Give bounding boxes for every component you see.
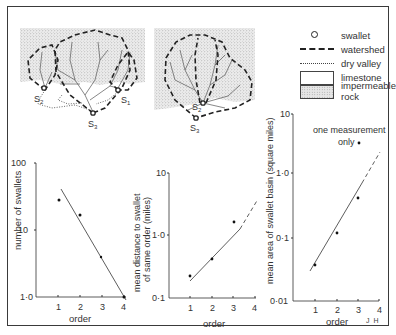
swallet-circle-icon xyxy=(300,29,334,41)
ylabel-line2: of same order (miles) xyxy=(142,197,152,282)
xtick-1: 1 xyxy=(313,305,318,315)
dry-valleys xyxy=(38,90,118,110)
swallet-s3-icon xyxy=(91,111,95,115)
legend-label: watershed xyxy=(341,44,385,55)
ytick-0-1: 0·1 xyxy=(152,293,165,303)
xtick-3: 3 xyxy=(100,302,105,312)
swallets xyxy=(42,86,120,115)
data-points xyxy=(189,221,236,278)
label-s2: S2 xyxy=(34,94,44,105)
ytick-0-1: 0·1 xyxy=(276,233,289,243)
map-right: S2 S3 xyxy=(154,28,255,134)
xtick-4: 4 xyxy=(377,305,382,315)
ytick-1: 1·0 xyxy=(276,168,289,178)
data-points xyxy=(58,199,126,299)
fit-line xyxy=(310,183,362,271)
xtick-4: 4 xyxy=(252,303,257,313)
ytick-0-01: 0·01 xyxy=(270,296,288,306)
xtick-2: 2 xyxy=(335,305,340,315)
xtick-4: 4 xyxy=(121,302,126,312)
fit-line xyxy=(190,229,240,281)
chart-mean-area xyxy=(291,114,380,301)
ytick-100: 100 xyxy=(11,158,26,168)
ytick-10: 10 xyxy=(280,109,290,119)
impermeable-rock-area xyxy=(154,28,255,110)
swallet-s2-icon xyxy=(42,86,46,90)
stippled-box-icon xyxy=(300,85,334,97)
label-s3: S3 xyxy=(88,119,98,130)
legend-item-watershed: watershed xyxy=(300,42,396,56)
legend-item-impermeable-rock: impermeable rock xyxy=(300,84,396,98)
xtick-3: 3 xyxy=(231,303,236,313)
fit-line xyxy=(61,189,126,300)
legend-item-swallet: swallet xyxy=(300,28,396,42)
legend: swallet watershed dry valley limestone i… xyxy=(300,28,396,98)
xtick-2: 2 xyxy=(210,303,215,313)
fit-line-extrapolated xyxy=(362,152,380,183)
fit-line-extrapolated xyxy=(240,199,258,229)
impermeable-rock-area xyxy=(20,28,145,85)
label-s3: S3 xyxy=(190,123,200,134)
legend-label: swallet xyxy=(341,30,370,41)
ylabel: number of swallets xyxy=(12,171,23,250)
xlabel: order xyxy=(69,313,91,324)
annotation-line2: only xyxy=(338,137,355,147)
label-s1: S1 xyxy=(121,95,131,106)
empty-box-icon xyxy=(300,71,334,83)
ytick-1: 1·0 xyxy=(20,292,33,302)
xtick-1: 1 xyxy=(188,303,193,313)
ylabel: mean area of swallet basin (square miles… xyxy=(265,117,275,284)
swallet-s2-icon xyxy=(201,101,205,105)
chart-number-of-swallets xyxy=(34,163,126,300)
ytick-10: 10 xyxy=(156,168,166,178)
artist-signature: J H xyxy=(366,317,380,324)
xtick-2: 2 xyxy=(78,302,83,312)
map-left: S2 S1 S3 xyxy=(20,28,145,130)
chart-mean-distance xyxy=(167,173,258,298)
swallet-s3-icon xyxy=(194,116,198,120)
xtick-1: 1 xyxy=(56,302,61,312)
annotation-line1: one measurement xyxy=(313,125,386,135)
xlabel: order xyxy=(203,318,225,329)
single-measurement-point xyxy=(358,142,361,145)
legend-label: dry valley xyxy=(341,58,381,69)
ytick-1: 1·0 xyxy=(152,230,165,240)
legend-label: impermeable rock xyxy=(341,80,396,102)
ylabel-line1: mean distance to swallet xyxy=(132,193,142,292)
xlabel: order xyxy=(326,316,348,327)
data-points xyxy=(314,142,361,267)
legend-item-dry-valley: dry valley xyxy=(300,56,396,70)
dotted-line-icon xyxy=(300,57,334,69)
xtick-3: 3 xyxy=(356,305,361,315)
swallet-s1-icon xyxy=(116,88,120,92)
dashed-line-icon xyxy=(300,43,334,55)
